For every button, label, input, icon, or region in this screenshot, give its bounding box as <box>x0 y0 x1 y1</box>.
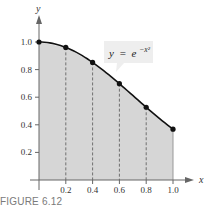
y-axis-arrow-icon <box>36 15 42 24</box>
data-point <box>144 105 149 110</box>
y-tick-label: 1.0 <box>21 37 33 47</box>
figure-caption: FIGURE 6.12 <box>0 196 62 207</box>
x-tick-label: 0.4 <box>87 185 99 195</box>
data-point <box>117 81 122 86</box>
y-axis-label: y <box>35 3 41 14</box>
eq-exponent: −x² <box>139 45 150 54</box>
equation-label: y = e −x² <box>104 41 153 72</box>
x-tick-label: 0.2 <box>60 185 71 195</box>
chart-svg: x y 0.20.40.60.81.0 0.20.40.60.81.0 y = … <box>0 0 219 217</box>
data-point <box>36 39 41 44</box>
eq-y: y <box>108 47 114 59</box>
data-point <box>63 45 68 50</box>
y-tick-label: 0.6 <box>21 92 33 102</box>
x-axis-label: x <box>198 174 204 185</box>
eq-equals: = <box>120 47 126 59</box>
data-point <box>170 127 175 132</box>
y-ticks: 0.20.40.60.81.0 <box>21 37 39 157</box>
eq-e: e <box>132 47 137 59</box>
x-tick-label: 0.6 <box>114 185 126 195</box>
data-point <box>90 60 95 65</box>
y-tick-label: 0.4 <box>21 120 33 130</box>
x-tick-label: 1.0 <box>167 185 179 195</box>
x-ticks: 0.20.40.60.81.0 <box>60 180 179 195</box>
y-tick-label: 0.2 <box>21 147 32 157</box>
y-tick-label: 0.8 <box>21 65 33 75</box>
x-axis-arrow-icon <box>185 177 194 183</box>
x-tick-label: 0.8 <box>141 185 153 195</box>
